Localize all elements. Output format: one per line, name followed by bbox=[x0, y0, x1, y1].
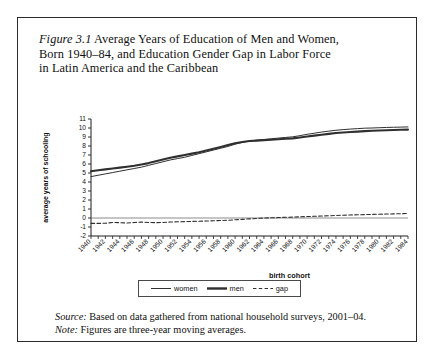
x-tick-label: 1952 bbox=[163, 238, 179, 254]
y-tick-label: 5 bbox=[82, 169, 86, 176]
y-tick-label: 9 bbox=[82, 133, 86, 140]
legend-item-men: men bbox=[207, 284, 244, 293]
y-tick-label: -1 bbox=[80, 223, 86, 230]
x-tick-label: 1958 bbox=[206, 238, 222, 254]
figure-frame: Figure 3.1 Average Years of Education of… bbox=[17, 17, 417, 342]
x-tick-label: 1982 bbox=[379, 238, 395, 254]
line-chart: -2-1012345678910111940194219441946194819… bbox=[18, 90, 418, 290]
legend-item-gap: gap bbox=[253, 284, 288, 293]
x-tick-label: 1950 bbox=[148, 238, 164, 254]
caption-line-2: Born 1940–84, and Education Gender Gap i… bbox=[39, 47, 395, 62]
legend-label-men: men bbox=[230, 284, 244, 293]
x-tick-label: 1964 bbox=[249, 238, 265, 254]
caption-line-1: Figure 3.1 Average Years of Education of… bbox=[39, 32, 395, 47]
legend-label-women: women bbox=[174, 284, 198, 293]
x-tick-label: 1960 bbox=[220, 238, 236, 254]
chart-plot-area: -2-1012345678910111940194219441946194819… bbox=[18, 90, 418, 290]
y-tick-label: 6 bbox=[82, 160, 86, 167]
figure-number: Figure 3.1 bbox=[39, 32, 91, 46]
series-line-men bbox=[91, 130, 408, 172]
legend-label-gap: gap bbox=[276, 284, 288, 293]
x-tick-label: 1944 bbox=[105, 238, 121, 254]
note-label: Note: bbox=[55, 324, 78, 335]
legend-swatch-men bbox=[207, 285, 227, 292]
y-tick-label: 8 bbox=[82, 142, 86, 149]
caption-line-3: in Latin America and the Caribbean bbox=[39, 61, 395, 76]
x-axis-title: birth cohort bbox=[269, 271, 311, 280]
legend-item-women: women bbox=[151, 284, 198, 293]
x-tick-label: 1962 bbox=[235, 238, 251, 254]
x-tick-label: 1956 bbox=[192, 238, 208, 254]
x-tick-label: 1974 bbox=[321, 238, 337, 254]
x-tick-label: 1980 bbox=[365, 238, 381, 254]
y-tick-label: 4 bbox=[82, 178, 86, 185]
series-line-gap bbox=[91, 214, 408, 224]
x-tick-label: 1978 bbox=[350, 238, 366, 254]
figure-page: Figure 3.1 Average Years of Education of… bbox=[0, 0, 434, 360]
x-tick-label: 1946 bbox=[120, 238, 136, 254]
y-tick-label: 7 bbox=[82, 151, 86, 158]
source-line: Source: Based on data gathered from nati… bbox=[55, 310, 405, 323]
x-tick-label: 1954 bbox=[177, 238, 193, 254]
x-tick-label: 1966 bbox=[264, 238, 280, 254]
x-tick-label: 1984 bbox=[393, 238, 409, 254]
y-tick-label: 0 bbox=[82, 214, 86, 221]
y-tick-label: 2 bbox=[82, 196, 86, 203]
source-label: Source: bbox=[55, 311, 87, 322]
y-tick-label: 3 bbox=[82, 187, 86, 194]
series-line-women bbox=[91, 127, 408, 177]
y-tick-label: 1 bbox=[82, 205, 86, 212]
x-tick-label: 1940 bbox=[76, 238, 92, 254]
chart-legend: women men gap bbox=[138, 280, 301, 297]
caption-line-1-text: Average Years of Education of Men and Wo… bbox=[91, 32, 339, 46]
legend-swatch-gap bbox=[253, 285, 273, 292]
x-tick-label: 1942 bbox=[91, 238, 107, 254]
note-line: Note: Figures are three-year moving aver… bbox=[55, 323, 405, 336]
y-tick-label: 10 bbox=[79, 124, 87, 131]
source-text: Based on data gathered from national hou… bbox=[87, 311, 366, 322]
y-axis-title: average years of schooling bbox=[42, 132, 50, 222]
figure-notes: Source: Based on data gathered from nati… bbox=[55, 310, 405, 336]
x-tick-label: 1968 bbox=[278, 238, 294, 254]
x-tick-label: 1976 bbox=[336, 238, 352, 254]
y-tick-label: 11 bbox=[79, 115, 86, 122]
note-text: Figures are three-year moving averages. bbox=[78, 324, 246, 335]
x-tick-label: 1948 bbox=[134, 238, 150, 254]
x-tick-label: 1972 bbox=[307, 238, 323, 254]
x-tick-label: 1970 bbox=[293, 238, 309, 254]
legend-swatch-women bbox=[151, 285, 171, 292]
figure-caption: Figure 3.1 Average Years of Education of… bbox=[39, 32, 395, 76]
